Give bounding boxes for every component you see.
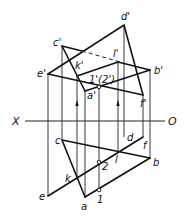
arrow-icons	[75, 100, 119, 106]
label-2: 2	[102, 161, 108, 172]
label-c: c	[55, 135, 61, 146]
label-c-prime: c'	[53, 37, 61, 48]
arrow-up-icon	[75, 100, 78, 106]
label-b: b	[153, 157, 159, 168]
label-e: e	[39, 191, 45, 202]
label-e-prime: e'	[37, 68, 46, 79]
label-l-prime: l'	[113, 48, 119, 59]
axis-label-o: O	[168, 115, 177, 128]
label-a-prime: a'	[87, 90, 96, 101]
label-l: l	[115, 154, 118, 165]
projection-drawing: X O c' d' e' f' a' b' k' l' 1'(2') c d e…	[0, 0, 184, 218]
label-f: f	[143, 140, 148, 151]
projection-lines	[48, 25, 150, 197]
arrow-up-icon	[116, 100, 119, 106]
axis-label-x: X	[11, 115, 20, 128]
label-1-2-prime: 1'(2')	[89, 74, 115, 85]
label-a: a	[81, 201, 87, 212]
label-k-prime: k'	[75, 60, 84, 71]
label-1: 1	[97, 194, 103, 205]
label-d: d	[127, 132, 134, 143]
label-f-prime: f'	[140, 98, 146, 109]
label-b-prime: b'	[154, 65, 163, 76]
label-d-prime: d'	[121, 11, 130, 22]
